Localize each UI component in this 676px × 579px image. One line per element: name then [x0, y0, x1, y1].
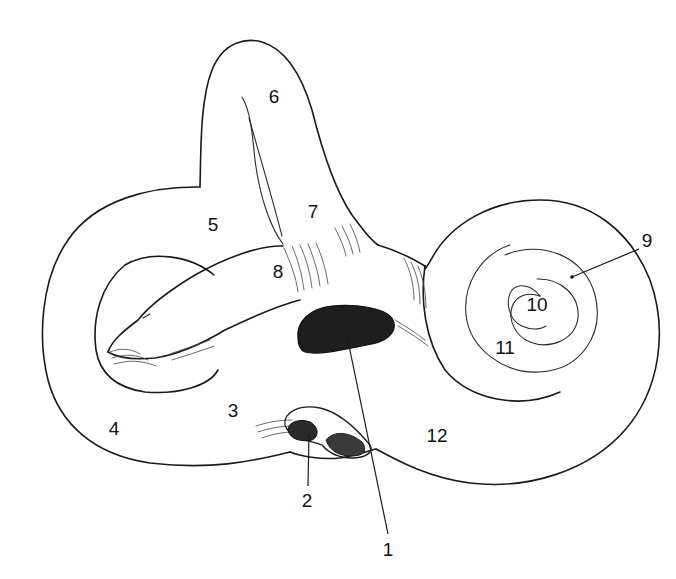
label-8: 8 [273, 262, 284, 281]
label-12: 12 [426, 426, 447, 445]
label-9: 9 [642, 231, 653, 250]
label-5: 5 [208, 215, 219, 234]
round-window [285, 407, 371, 458]
labyrinth-drawing [0, 0, 676, 579]
leader-9 [572, 249, 639, 277]
label-10: 10 [526, 295, 547, 314]
cochlea-spiral [423, 245, 597, 401]
label-1: 1 [383, 540, 394, 559]
oval-window [298, 306, 394, 354]
leader-9-dot [570, 275, 574, 279]
label-11: 11 [495, 338, 515, 357]
labyrinth-diagram: 1 2 3 4 5 6 7 8 9 10 11 12 [0, 0, 676, 579]
bony-labyrinth-outline [43, 40, 660, 484]
label-2: 2 [302, 491, 313, 510]
leader-2 [308, 434, 309, 486]
label-6: 6 [269, 87, 280, 106]
label-3: 3 [228, 401, 239, 420]
label-4: 4 [109, 419, 120, 438]
label-7: 7 [308, 202, 319, 221]
leader-1 [347, 336, 388, 534]
